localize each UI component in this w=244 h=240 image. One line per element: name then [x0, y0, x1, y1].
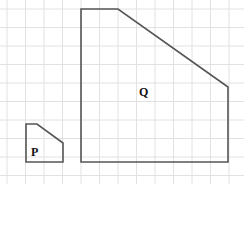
label-p: P — [31, 145, 38, 160]
label-q: Q — [139, 85, 148, 100]
